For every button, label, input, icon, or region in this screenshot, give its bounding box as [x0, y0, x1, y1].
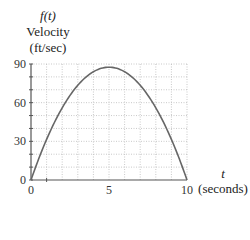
y-tick-label: 60 — [14, 96, 26, 110]
x-tick-label: 10 — [181, 183, 193, 197]
y-tick-label: 30 — [14, 134, 26, 148]
x-tick-label: 5 — [106, 183, 112, 197]
y-tick-label: 0 — [20, 173, 26, 187]
x-axis-variable: t — [196, 166, 250, 181]
x-axis-label: t (seconds) — [196, 166, 250, 196]
x-tick-label: 0 — [28, 183, 34, 197]
y-tick-label: 90 — [14, 57, 26, 71]
x-axis-units: (seconds) — [196, 181, 250, 196]
